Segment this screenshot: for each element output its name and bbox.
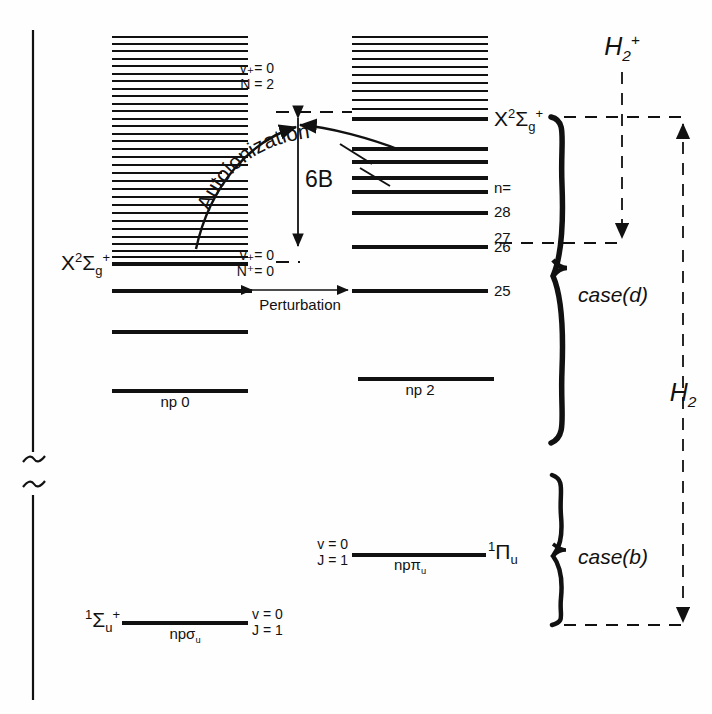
npsigma-sub: u (195, 635, 200, 645)
energy-level-diagram: X2Σg+ np 0 X2Σg+ n= 28 27 26 25 np 2 v₊=… (0, 0, 712, 714)
right-state-prefix: X (494, 107, 508, 130)
sigma-state-quantum-numbers: v = 0 J = 1 (252, 606, 283, 638)
lower-limit-quantum-numbers: v₊= 0 N⁺= 0 (237, 247, 274, 279)
left-level-lower-2 (112, 330, 248, 334)
right-level-n-27 (352, 211, 488, 215)
case-d-label: case(d) (578, 284, 648, 306)
nppi-u-label: npπu (394, 557, 426, 577)
right-state-sup: + (536, 106, 544, 121)
right-state-greek: Σ (515, 107, 528, 130)
sigma-term-sup: + (112, 607, 120, 622)
right-level-n-28 (352, 190, 488, 194)
left-state-sup: + (102, 250, 110, 265)
left-state-greek: Σ (82, 251, 95, 274)
left-level-lower-1 (112, 289, 252, 293)
left-state-prefix: X (61, 251, 75, 274)
np0-label: np 0 (160, 394, 189, 410)
nppi-text: npπ (394, 556, 421, 573)
right-level-n-29 (352, 176, 488, 180)
case-b-brace (552, 475, 566, 625)
pi-J-label: J = 1 (317, 552, 348, 568)
right-level-n-26 (352, 245, 488, 249)
energy-axis (23, 30, 45, 700)
right-state-label: X2Σg+ (494, 107, 543, 134)
npsigma-u-label: npσu (169, 626, 200, 646)
case-d-brace (551, 117, 567, 443)
right-level-n-upper-b (352, 160, 488, 164)
autoionization-arrow (196, 125, 400, 249)
v-plus-bottom-label: v₊= 0 (237, 247, 274, 263)
n-value-28: 28 (494, 204, 511, 220)
pi-u-term-label: 1Πu (488, 540, 518, 567)
right-level-n-25 (352, 289, 488, 293)
N-bottom-label: N⁺= 0 (237, 263, 274, 279)
sigma-u-term-label: 1Σu+ (85, 608, 120, 635)
h2-sub: 2 (688, 393, 697, 410)
left-state-label: X2Σg+ (61, 251, 110, 278)
pi-term-greek: Π (495, 540, 510, 563)
n-value-25: 25 (494, 283, 511, 299)
np2-label: np 2 (405, 382, 434, 398)
h2-plus-scale-arrow (622, 72, 683, 238)
right-level-n-upper-a (352, 147, 488, 151)
N-top-label: N = 2 (240, 76, 274, 92)
left-level-x2sigma-limit (112, 262, 248, 266)
sigma-v-label: v = 0 (252, 606, 283, 622)
sigma-term-greek: Σ (92, 608, 105, 631)
right-level-x2sigma-limit (352, 117, 488, 121)
six-b-label: 6B (305, 167, 333, 191)
left-state-sub: g (95, 263, 102, 278)
axis-break-squiggle (23, 456, 45, 462)
right-state-sub: g (528, 119, 535, 134)
h2-prefix: H (670, 378, 688, 406)
pi-v-label: v = 0 (317, 536, 348, 552)
h2-plus-sub: 2 (622, 47, 631, 64)
sigma-J-label: J = 1 (252, 622, 283, 638)
pi-term-sub: u (510, 552, 517, 567)
npsigma-text: npσ (169, 625, 195, 642)
sigma-term-sub: u (105, 620, 112, 635)
v-plus-top-label: v₊= 0 (240, 60, 274, 76)
perturbation-label: Perturbation (259, 297, 341, 313)
h2-plus-prefix: H (604, 32, 622, 60)
pi-state-quantum-numbers: v = 0 J = 1 (317, 536, 348, 568)
case-b-label: case(b) (578, 546, 648, 568)
h2-scale-label: H2 (670, 379, 697, 410)
n-value-26: 26 (494, 239, 511, 255)
upper-limit-quantum-numbers: v₊= 0 N = 2 (240, 60, 274, 92)
h2-plus-sup: + (631, 31, 640, 48)
n-marker-label: n= (494, 180, 511, 196)
h2-plus-scale-label: H2+ (604, 32, 640, 64)
nppi-sub: u (421, 566, 426, 576)
